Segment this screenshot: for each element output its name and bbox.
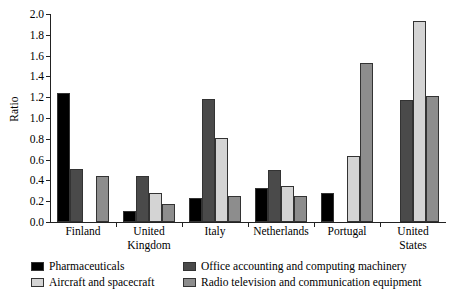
y-axis-tick-label: 1.2 [0, 90, 44, 104]
bar [281, 186, 294, 222]
bar [400, 100, 413, 222]
y-axis-tick-label: 0.2 [0, 194, 44, 208]
y-axis-tick-label: 2.0 [0, 7, 44, 21]
bar [268, 170, 281, 222]
bar [228, 196, 241, 222]
legend-label: Pharmaceuticals [49, 260, 124, 272]
y-axis-tick-label: 1.4 [0, 69, 44, 83]
bar-chart: Ratio 0.00.20.40.60.81.01.21.41.61.82.0 … [0, 0, 449, 298]
legend-item: Pharmaceuticals [31, 260, 183, 272]
bar [215, 138, 228, 222]
bar [360, 63, 373, 222]
legend-label: Radio television and communication equip… [201, 276, 421, 288]
bar [255, 188, 268, 222]
bar [321, 193, 334, 222]
x-axis-group-label: United States [368, 225, 449, 252]
legend-label: Office accounting and computing machiner… [201, 260, 406, 272]
x-axis-tick-mark [116, 223, 117, 227]
y-axis-tick-label: 0.4 [0, 173, 44, 187]
bar [162, 204, 175, 222]
bar [413, 21, 426, 222]
x-axis-tick-mark [182, 223, 183, 227]
y-axis-tick-label: 1.8 [0, 28, 44, 42]
bar [294, 196, 307, 222]
x-axis-tick-mark [314, 223, 315, 227]
legend-label: Aircraft and spacecraft [49, 276, 154, 288]
bar [70, 169, 83, 222]
y-axis-tick-label: 1.6 [0, 49, 44, 63]
y-axis-tick-label: 0.6 [0, 153, 44, 167]
legend-swatch [183, 262, 196, 271]
bar [96, 176, 109, 222]
x-axis-tick-mark [248, 223, 249, 227]
legend-item: Office accounting and computing machiner… [183, 260, 441, 272]
legend-swatch [31, 262, 44, 271]
bar [426, 96, 439, 222]
bar [347, 156, 360, 222]
legend-swatch [31, 278, 44, 287]
x-axis-tick-mark [380, 223, 381, 227]
bar [57, 93, 70, 222]
y-axis-tick-label: 0.8 [0, 132, 44, 146]
y-axis-tick-label: 1.0 [0, 111, 44, 125]
legend-item: Radio television and communication equip… [183, 276, 441, 288]
plot-area [50, 14, 446, 222]
bar [123, 211, 136, 222]
bar [149, 193, 162, 222]
chart-legend: PharmaceuticalsOffice accounting and com… [31, 258, 441, 290]
y-axis-title: Ratio [8, 79, 20, 139]
bar [202, 99, 215, 222]
bar [189, 198, 202, 222]
bar [136, 176, 149, 222]
legend-item: Aircraft and spacecraft [31, 276, 183, 288]
legend-swatch [183, 278, 196, 287]
